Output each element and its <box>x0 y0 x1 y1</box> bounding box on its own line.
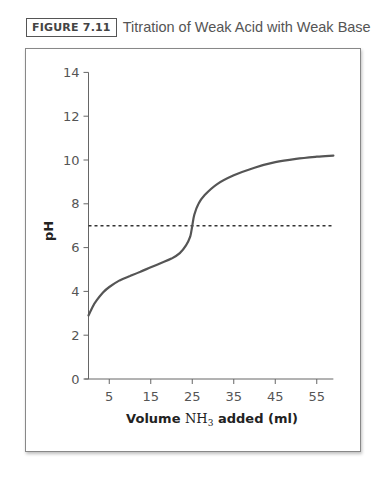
titration-chart: 02468101214 51525354555 pH Volume NH3 ad… <box>0 0 375 481</box>
x-tick-label: 55 <box>308 389 325 404</box>
y-tick-label: 4 <box>71 284 79 299</box>
titration-curve <box>89 156 334 316</box>
y-tick-label: 2 <box>71 328 79 343</box>
y-axis-title: pH <box>41 221 56 241</box>
x-tick-label: 15 <box>142 389 159 404</box>
y-axis: 02468101214 <box>63 65 89 387</box>
x-axis-title: Volume NH3 added (ml) <box>126 411 298 428</box>
y-tick-label: 8 <box>71 196 79 211</box>
x-axis: 51525354555 <box>85 379 334 404</box>
x-tick-label: 45 <box>267 389 284 404</box>
x-tick-label: 35 <box>225 389 242 404</box>
y-tick-label: 14 <box>63 65 80 80</box>
x-tick-label: 25 <box>184 389 201 404</box>
y-tick-label: 12 <box>63 109 80 124</box>
y-tick-label: 10 <box>63 153 80 168</box>
x-tick-label: 5 <box>105 389 113 404</box>
y-tick-label: 0 <box>71 372 79 387</box>
y-tick-label: 6 <box>71 240 79 255</box>
